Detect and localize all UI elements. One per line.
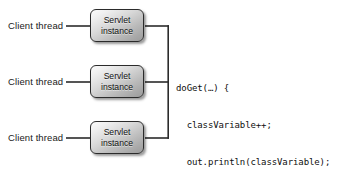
servlet-box-3-line2: instance xyxy=(101,138,133,149)
servlet-box-2-line1: Servlet xyxy=(104,71,131,82)
thread-label-2: Client thread xyxy=(8,77,63,87)
servlet-concurrency-diagram: Client thread Client thread Client threa… xyxy=(0,0,347,171)
servlet-box-1-line1: Servlet xyxy=(104,15,131,26)
code-line-3: out.println(classVariable); xyxy=(176,156,330,168)
servlet-instance-box-1: Servlet instance xyxy=(90,9,144,42)
code-line-2: classVariable++; xyxy=(176,119,330,131)
code-line-1: doGet(…) { xyxy=(176,82,330,94)
servlet-box-3-line1: Servlet xyxy=(104,127,131,138)
servlet-box-1-line2: instance xyxy=(101,26,133,37)
servlet-instance-box-3: Servlet instance xyxy=(90,121,144,154)
thread-label-3: Client thread xyxy=(8,133,63,143)
servlet-box-2-line2: instance xyxy=(101,82,133,93)
thread-label-1: Client thread xyxy=(8,21,63,31)
doget-code-block: doGet(…) { classVariable++; out.println(… xyxy=(176,57,330,171)
servlet-instance-box-2: Servlet instance xyxy=(90,65,144,98)
